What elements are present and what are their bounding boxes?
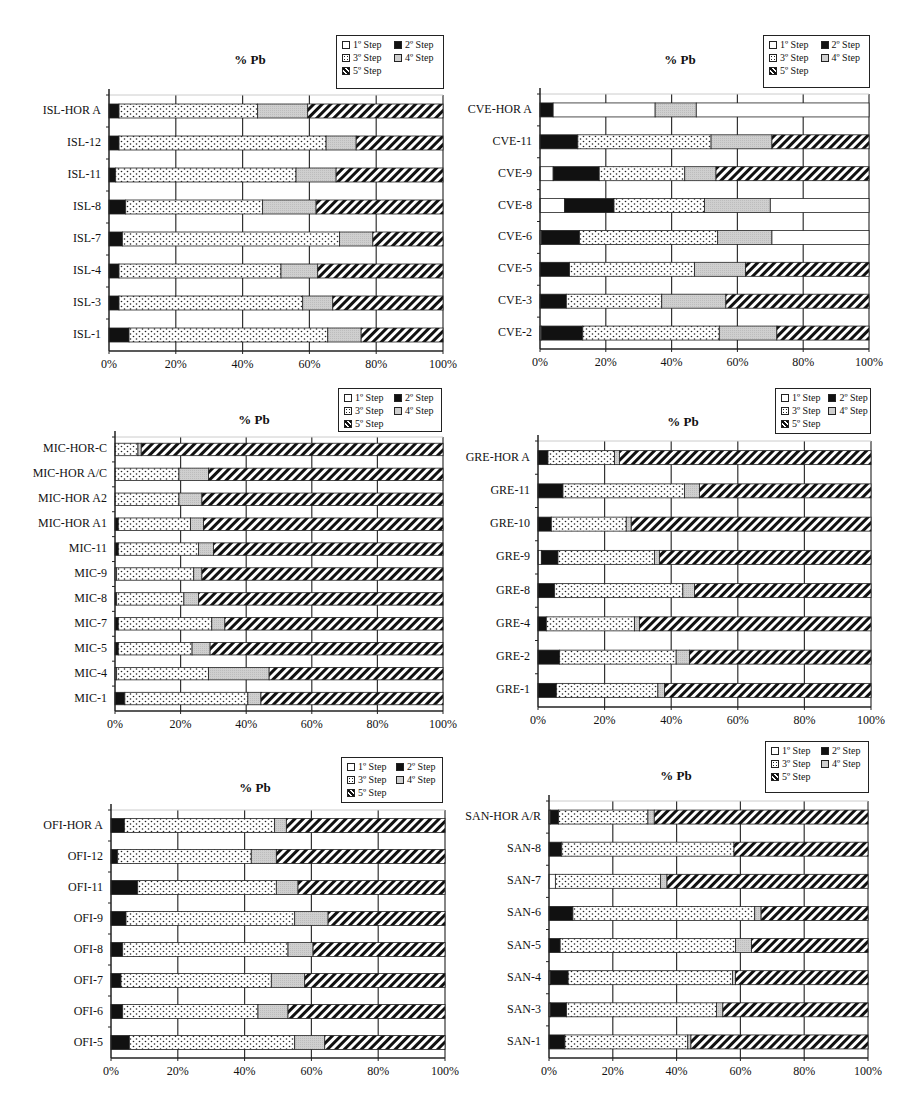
bar-segment-white: [540, 199, 565, 213]
x-axis-tick-label: 40%: [223, 357, 263, 372]
y-axis-label: OFI-7: [74, 973, 103, 988]
bar-segment-white: [772, 230, 869, 244]
bar-row: [540, 262, 869, 276]
bar-segment-black: [549, 939, 560, 953]
bar-segment-black: [540, 103, 553, 117]
legend-swatch-dots-icon: [769, 54, 777, 62]
bar-segment-black: [538, 451, 548, 465]
legend-item: 2º Step: [828, 392, 867, 403]
x-axis-tick-label: 80%: [783, 355, 823, 370]
bar-segment-black: [549, 842, 562, 856]
x-axis-tick-label: 60%: [291, 1064, 331, 1079]
bar-segment-hatch: [654, 810, 868, 824]
legend-swatch-dots-icon: [771, 760, 779, 768]
bar-segment-dots: [599, 167, 685, 181]
y-axis-label: MIC-HOR A2: [38, 491, 107, 506]
legend-label: 2º Step: [832, 39, 860, 50]
legend-label: 2º Step: [405, 392, 433, 403]
bar-segment-hatch: [690, 650, 871, 664]
x-axis-tick-label: 20%: [156, 357, 196, 372]
x-axis-tick-label: 60%: [289, 357, 329, 372]
chart-title: % Pb: [623, 414, 743, 430]
bar-segment-hatch: [213, 543, 443, 555]
bar-segment-black: [111, 974, 121, 988]
bar-segment-gray: [295, 1036, 325, 1050]
legend-label: 5º Step: [792, 418, 820, 429]
bar-segment-hatch: [777, 326, 869, 340]
legend-label: 5º Step: [782, 771, 810, 782]
bar-segment-gray: [736, 939, 752, 953]
bar-segment-black: [540, 262, 570, 276]
bar-segment-dots: [558, 550, 655, 564]
bar-segment-dots: [568, 971, 732, 985]
legend-label: 2º Step: [407, 761, 435, 772]
bar-row: [538, 683, 871, 697]
bar-segment-gray: [184, 593, 199, 605]
bar-segment-gray: [208, 667, 269, 679]
bar-segment-black: [111, 1036, 129, 1050]
bar-segment-hatch: [695, 584, 871, 598]
legend-swatch-black-icon: [396, 763, 404, 771]
bar-row: [115, 493, 443, 505]
legend-row: 3º Step4º Step: [771, 757, 863, 770]
bar-row: [109, 264, 443, 278]
bar-row: [111, 819, 445, 833]
bar-row: [549, 906, 868, 920]
x-axis-tick-label: 80%: [357, 717, 397, 732]
legend-item: 3º Step: [342, 52, 386, 63]
legend-item: 1º Step: [347, 761, 388, 772]
bar-segment-gray: [658, 683, 665, 697]
bar-segment-white: [696, 103, 869, 117]
bar-row: [115, 618, 443, 630]
bar-segment-gray: [683, 584, 695, 598]
bar-segment-gray: [212, 618, 225, 630]
y-axis-label: MIC-7: [74, 616, 107, 631]
x-axis-tick-label: 0%: [95, 717, 135, 732]
bar-segment-black: [109, 264, 119, 278]
bar-segment-dots: [126, 912, 295, 926]
legend-label: 2º Step: [405, 39, 433, 50]
bar-segment-dots: [555, 874, 660, 888]
bar-segment-gray: [661, 874, 667, 888]
bar-segment-dots: [555, 584, 683, 598]
y-axis-label: SAN-5: [507, 938, 541, 953]
bar-segment-dots: [119, 136, 326, 150]
legend-swatch-hatch-icon: [344, 420, 352, 428]
bar-segment-hatch: [734, 842, 868, 856]
bar-segment-black: [551, 810, 559, 824]
legend-label: 2º Step: [832, 745, 860, 756]
bar-segment-dots: [124, 819, 274, 833]
y-axis-label: GRE-8: [496, 583, 530, 598]
bar-segment-black: [541, 550, 558, 564]
figure-svg: [0, 0, 903, 1103]
legend-label: 4º Step: [405, 405, 433, 416]
legend-label: 4º Step: [405, 52, 433, 63]
bar-segment-dots: [115, 493, 179, 505]
bar-segment-gray: [676, 650, 689, 664]
bar-row: [540, 135, 869, 149]
bar-segment-black: [538, 683, 556, 697]
chart-title: % Pb: [195, 780, 315, 796]
bar-segment-dots: [123, 1005, 258, 1019]
bar-segment-hatch: [208, 468, 443, 480]
bar-row: [111, 943, 445, 957]
legend-swatch-gray-icon: [396, 776, 404, 784]
bar-segment-dots: [548, 451, 615, 465]
bar-segment-dots: [551, 517, 626, 531]
bar-row: [549, 971, 868, 985]
legend-item: 1º Step: [769, 39, 813, 50]
legend-swatch-hatch-icon: [769, 67, 777, 75]
bar-segment-hatch: [202, 493, 443, 505]
bar-segment-dots: [126, 200, 263, 214]
x-axis-tick-label: 0%: [518, 713, 558, 728]
legend-row: 5º Step: [781, 417, 865, 430]
legend-row: 1º Step2º Step: [347, 760, 437, 773]
legend-item: 2º Step: [821, 745, 863, 756]
bar-segment-dots: [570, 262, 695, 276]
x-axis-tick-label: 80%: [784, 1064, 824, 1079]
legend-item: 4º Step: [828, 405, 867, 416]
legend-item: 3º Step: [771, 758, 813, 769]
bar-segment-dots: [123, 943, 288, 957]
chart-isl: [106, 89, 443, 354]
bar-row: [549, 939, 868, 953]
